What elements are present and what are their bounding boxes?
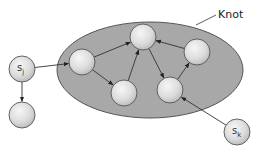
knot-leader-line [196,15,216,25]
node-below_sj [9,102,35,128]
node-sk: sk [224,119,250,145]
node-k5 [157,77,183,103]
node-circle [111,80,137,106]
node-circle [184,39,210,65]
node-k2 [130,24,156,50]
knot-diagram: Knot sjsk [0,0,259,157]
node-circle [130,24,156,50]
node-k1 [69,49,95,75]
node-sj: sj [9,56,35,82]
knot-label: Knot [218,8,244,21]
node-k4 [184,39,210,65]
node-k3 [111,80,137,106]
node-circle [69,49,95,75]
node-circle [157,77,183,103]
node-circle [9,102,35,128]
